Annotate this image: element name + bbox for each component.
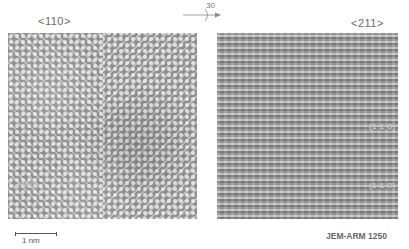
right-zone-axis-label: <211> — [351, 17, 384, 29]
plane-label-200: (200) — [17, 180, 38, 189]
right-micrograph-panel: (1 1 0) (1 1 0) — [217, 33, 398, 219]
left-zone-axis-label: <110> — [38, 15, 71, 27]
plane-label-110-upper: (1 1 0) — [369, 122, 396, 131]
plane-label-110-lower: (1 1 0) — [369, 181, 396, 190]
left-micrograph-panel: (200) — [8, 33, 197, 219]
rotation-arrow-icon — [183, 8, 223, 22]
scale-bar-label: 1 nm — [22, 236, 40, 245]
contrast-overlay — [8, 33, 197, 219]
rotation-angle-label: 30 — [206, 1, 215, 10]
instrument-label: JEM-ARM 1250 — [326, 231, 387, 241]
